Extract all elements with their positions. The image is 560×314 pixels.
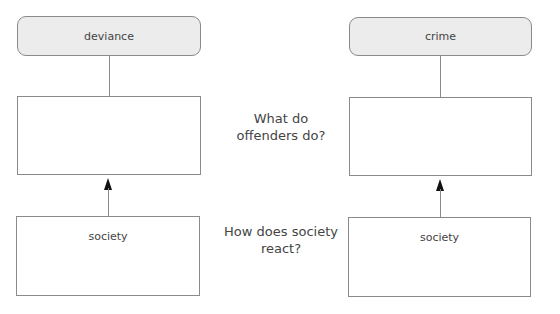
deviance-label: deviance bbox=[84, 30, 134, 43]
crime-header-box: crime bbox=[349, 17, 532, 56]
crime-label: crime bbox=[425, 30, 456, 43]
deviance-arrow-line bbox=[108, 188, 109, 216]
deviance-society-label: society bbox=[17, 230, 199, 243]
crime-society-box: society bbox=[348, 217, 531, 297]
question-society-reaction: How does society react? bbox=[221, 223, 341, 257]
question-offenders: What do offenders do? bbox=[221, 110, 341, 144]
deviance-society-box: society bbox=[16, 216, 200, 296]
deviance-header-box: deviance bbox=[17, 16, 201, 56]
crime-society-label: society bbox=[349, 231, 530, 244]
crime-connector-line bbox=[440, 56, 441, 97]
deviance-offenders-box bbox=[17, 96, 201, 175]
crime-offenders-box bbox=[349, 97, 532, 176]
crime-arrow-line bbox=[440, 189, 441, 217]
deviance-connector-line bbox=[109, 56, 110, 96]
